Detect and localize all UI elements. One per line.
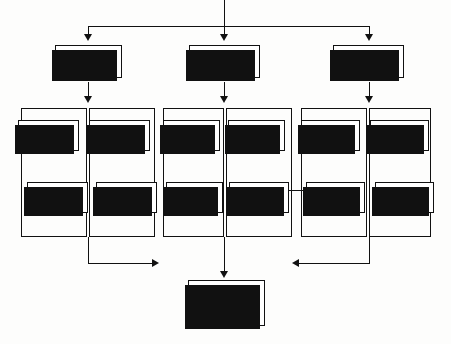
return-line-right-vertical <box>369 237 370 263</box>
node-inspection-procedures-label: Inspection Procedures <box>342 51 395 72</box>
node-in-house-resources[interactable]: In-house resources <box>96 182 157 213</box>
branch-arrow-center <box>220 34 228 41</box>
node-services-consultant[interactable]: Services Consultant <box>18 120 79 151</box>
node-sub-contracts[interactable]: Sub- Contracts <box>27 182 88 213</box>
node-sub-contracts-label: Sub- Contracts <box>38 188 77 206</box>
node-equipment[interactable]: Equipment <box>375 182 434 213</box>
drop-arrow-operational-control <box>220 96 228 103</box>
node-environmental-system-records-label: Environmental System Records <box>196 288 258 318</box>
return-line-left-horizontal <box>88 263 154 264</box>
drop-line-inspection-procedures <box>369 82 370 97</box>
node-processes-label: Processes <box>314 193 356 202</box>
drop-line-resource-inputs <box>88 82 89 97</box>
top-input-stem <box>224 0 225 26</box>
drop-arrow-inspection-procedures <box>365 96 373 103</box>
return-arrow-center <box>220 271 228 278</box>
node-processes[interactable]: Processes <box>306 182 365 213</box>
node-materials-label: Materials <box>101 131 138 140</box>
node-performance-criteria[interactable]: Performance Criteria <box>229 182 289 213</box>
branch-arrow-right <box>365 34 373 41</box>
return-line-right-horizontal <box>299 263 370 264</box>
node-services-consultant-label: Services Consultant <box>27 126 70 144</box>
return-line-center <box>224 237 225 273</box>
node-materials[interactable]: Materials <box>89 120 150 151</box>
node-environmental-system-records[interactable]: Environmental System Records <box>188 280 265 326</box>
node-special-tasks-label: Special Tasks <box>241 126 272 144</box>
return-line-left-vertical <box>88 237 89 263</box>
node-special-tasks[interactable]: Special Tasks <box>228 120 285 151</box>
node-equipment-label: Equipment <box>383 193 426 202</box>
node-standards-label: Standards <box>174 193 215 202</box>
branch-arrow-left <box>84 34 92 41</box>
node-products-label: Products <box>312 131 348 140</box>
flowchart-canvas: Resource Inputs Operational Control Insp… <box>0 0 451 344</box>
top-distribution-bus <box>88 26 369 27</box>
node-resource-inputs[interactable]: Resource Inputs <box>55 45 122 78</box>
node-resource-inputs-label: Resource Inputs <box>66 51 111 72</box>
node-inspection-tasks[interactable]: Tasks <box>370 120 429 151</box>
node-standards[interactable]: Standards <box>166 182 223 213</box>
node-operational-control[interactable]: Operational Control <box>189 45 260 78</box>
return-arrow-right <box>292 259 299 267</box>
node-inspection-procedures[interactable]: Inspection Procedures <box>333 45 404 78</box>
node-performance-criteria-label: Performance Criteria <box>234 188 285 206</box>
return-arrow-left <box>152 259 159 267</box>
node-in-house-resources-label: In-house resources <box>107 188 147 206</box>
drop-line-operational-control <box>224 82 225 97</box>
drop-arrow-resource-inputs <box>84 96 92 103</box>
node-tasks-label: Tasks <box>179 131 204 140</box>
node-operational-control-label: Operational Control <box>198 51 251 72</box>
node-inspection-tasks-label: Tasks <box>387 131 412 140</box>
node-products[interactable]: Products <box>301 120 360 151</box>
node-tasks[interactable]: Tasks <box>163 120 220 151</box>
